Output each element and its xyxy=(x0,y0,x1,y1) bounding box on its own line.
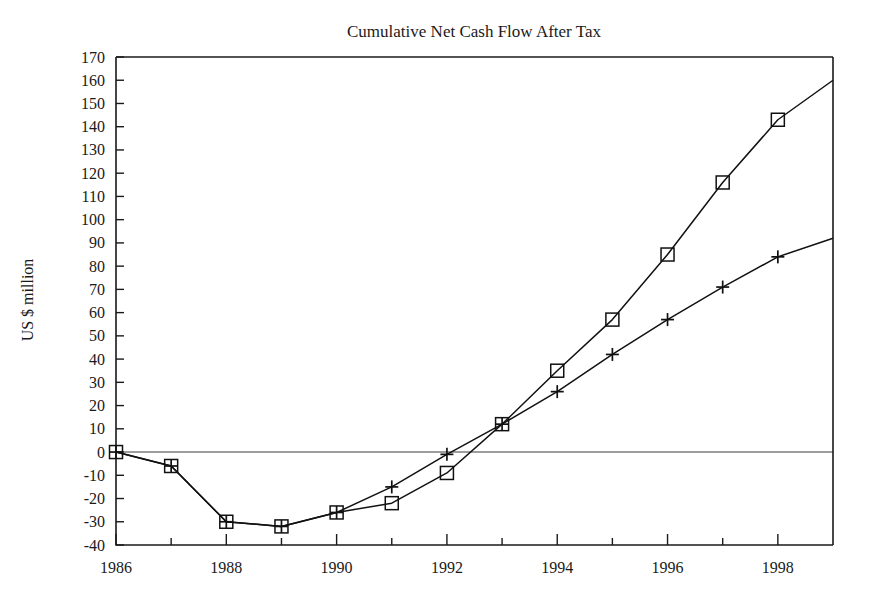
x-tick-label: 1988 xyxy=(210,559,242,576)
y-tick-label: 170 xyxy=(81,49,105,66)
y-tick-label: 160 xyxy=(81,72,105,89)
y-tick-label: 140 xyxy=(81,118,105,135)
y-tick-label: 70 xyxy=(89,281,105,298)
x-tick-label: 1990 xyxy=(321,559,353,576)
y-tick-label: 10 xyxy=(89,420,105,437)
x-tick-label: 1996 xyxy=(652,559,684,576)
x-tick-label: 1992 xyxy=(431,559,463,576)
x-tick-label: 1986 xyxy=(100,559,132,576)
chart-background xyxy=(0,0,876,612)
y-axis-title: US $ million xyxy=(19,259,36,342)
y-tick-label: 40 xyxy=(89,351,105,368)
y-tick-label: 60 xyxy=(89,304,105,321)
y-tick-label: 50 xyxy=(89,327,105,344)
y-tick-label: 110 xyxy=(82,188,105,205)
y-tick-label: -30 xyxy=(84,513,105,530)
y-tick-label: 90 xyxy=(89,234,105,251)
y-tick-label: 80 xyxy=(89,258,105,275)
chart-figure: Cumulative Net Cash Flow After Tax US $ … xyxy=(0,0,876,612)
y-tick-label: 20 xyxy=(89,397,105,414)
y-tick-label: -20 xyxy=(84,490,105,507)
x-tick-label: 1998 xyxy=(762,559,794,576)
y-tick-label: 150 xyxy=(81,95,105,112)
y-tick-label: -10 xyxy=(84,467,105,484)
y-tick-label: 120 xyxy=(81,165,105,182)
x-tick-label: 1994 xyxy=(541,559,573,576)
chart-title: Cumulative Net Cash Flow After Tax xyxy=(347,22,601,41)
chart-canvas: Cumulative Net Cash Flow After Tax US $ … xyxy=(0,0,876,612)
y-tick-label: 100 xyxy=(81,211,105,228)
y-tick-label: -40 xyxy=(84,537,105,554)
y-tick-label: 0 xyxy=(97,444,105,461)
y-tick-label: 30 xyxy=(89,374,105,391)
y-tick-label: 130 xyxy=(81,141,105,158)
